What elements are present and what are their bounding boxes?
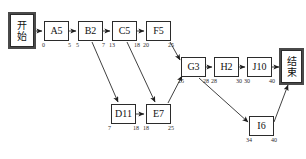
node-I6-label: I6 xyxy=(257,121,265,131)
node-F5-label: F5 xyxy=(153,26,164,36)
node-start: 开始 xyxy=(10,14,34,47)
node-F5-early-finish: 25 xyxy=(168,42,174,49)
node-B2-times: 5 7 xyxy=(76,42,105,49)
node-B2: B2 xyxy=(78,21,103,41)
node-E7: E7 xyxy=(146,104,171,124)
node-G3-label: G3 xyxy=(187,62,199,72)
edge-B2-D11 xyxy=(92,42,118,102)
node-J10-early-finish: 40 xyxy=(269,78,275,85)
node-J10-early-start: 30 xyxy=(244,78,250,85)
node-C5-early-finish: 18 xyxy=(134,42,140,49)
node-G3-early-finish: 28 xyxy=(203,78,209,85)
node-I6-times: 34 40 xyxy=(246,137,277,144)
node-H2-label: H2 xyxy=(220,62,232,72)
node-start-label: 开始 xyxy=(16,20,28,42)
node-I6-early-start: 34 xyxy=(246,137,252,144)
node-end: 结束 xyxy=(281,50,302,83)
node-H2-early-start: 28 xyxy=(211,78,217,85)
node-C5-label: C5 xyxy=(119,26,131,36)
node-D11-label: D11 xyxy=(115,109,132,119)
network-diagram-canvas: 开始 A5 0 5 B2 5 7 C5 13 18 F5 20 25 D11 7… xyxy=(0,0,306,159)
edge-C5-E7 xyxy=(127,42,155,102)
node-B2-label: B2 xyxy=(85,26,97,36)
node-H2: H2 xyxy=(214,57,239,77)
node-E7-label: E7 xyxy=(153,109,164,119)
node-A5-times: 0 5 xyxy=(42,42,71,49)
node-D11-early-finish: 18 xyxy=(133,125,139,132)
node-F5-times: 20 25 xyxy=(143,42,174,49)
edge-I6-end xyxy=(274,85,288,122)
node-A5-early-start: 0 xyxy=(42,42,45,49)
node-B2-early-finish: 7 xyxy=(102,42,105,49)
node-F5-early-start: 20 xyxy=(143,42,149,49)
node-end-label: 结束 xyxy=(286,56,298,78)
node-J10: J10 xyxy=(247,57,272,77)
node-D11-early-start: 7 xyxy=(108,125,111,132)
node-I6: I6 xyxy=(249,116,274,136)
node-J10-label: J10 xyxy=(253,62,267,72)
node-A5-label: A5 xyxy=(50,26,62,36)
node-A5-early-finish: 5 xyxy=(68,42,71,49)
node-I6-early-finish: 40 xyxy=(271,137,277,144)
node-E7-early-finish: 25 xyxy=(168,125,174,132)
node-C5-early-start: 13 xyxy=(109,42,115,49)
node-E7-early-start: 18 xyxy=(143,125,149,132)
node-G3-early-start: 25 xyxy=(178,78,184,85)
node-D11: D11 xyxy=(111,104,136,124)
node-J10-times: 30 40 xyxy=(244,78,275,85)
node-D11-times: 7 18 xyxy=(108,125,139,132)
node-A5: A5 xyxy=(44,21,69,41)
node-H2-early-finish: 30 xyxy=(236,78,242,85)
node-C5-times: 13 18 xyxy=(109,42,140,49)
node-G3: G3 xyxy=(181,57,206,77)
node-C5: C5 xyxy=(112,21,137,41)
node-F5: F5 xyxy=(146,21,171,41)
node-H2-times: 28 30 xyxy=(211,78,242,85)
node-E7-times: 18 25 xyxy=(143,125,174,132)
node-G3-times: 25 28 xyxy=(178,78,209,85)
node-B2-early-start: 5 xyxy=(76,42,79,49)
